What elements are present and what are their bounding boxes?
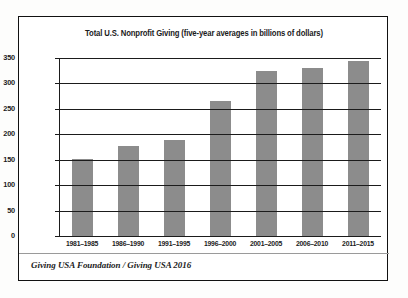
y-axis-line — [59, 58, 60, 236]
y-axis-label: 50 — [0, 206, 15, 215]
y-axis-label: 100 — [0, 180, 15, 189]
y-axis-label: 200 — [0, 129, 15, 138]
gridline — [59, 109, 381, 110]
x-axis-label: 2011–2015 — [333, 239, 383, 248]
y-axis-label: 300 — [0, 78, 15, 87]
gridline — [59, 83, 381, 84]
y-axis-tick — [55, 160, 59, 161]
x-axis-label: 2006–2010 — [287, 239, 337, 248]
gridline — [59, 211, 381, 212]
x-axis-label: 2001–2005 — [241, 239, 291, 248]
y-axis-label: 350 — [0, 53, 15, 62]
y-axis-tick — [55, 134, 59, 135]
gridline — [59, 185, 381, 186]
gridline — [59, 134, 381, 135]
y-axis-tick — [55, 58, 59, 59]
gridline — [59, 236, 381, 237]
gridline — [59, 160, 381, 161]
x-axis-label: 1981–1985 — [57, 239, 107, 248]
source-citation: Giving USA Foundation / Giving USA 2016 — [31, 260, 191, 270]
chart-figure: Total U.S. Nonprofit Giving (five-year a… — [18, 16, 388, 281]
bar — [72, 159, 93, 236]
y-axis-tick — [55, 109, 59, 110]
bar — [164, 140, 185, 236]
y-axis-label: 150 — [0, 155, 15, 164]
y-axis-label: 250 — [0, 104, 15, 113]
x-axis-labels: 1981–19851986–19901991–19951996–20002001… — [59, 239, 381, 253]
y-axis-tick — [55, 211, 59, 212]
gridline — [59, 58, 381, 59]
x-axis-label: 1996–2000 — [195, 239, 245, 248]
source-divider — [19, 253, 389, 254]
y-axis-label: 0 — [0, 231, 15, 240]
page-background: Total U.S. Nonprofit Giving (five-year a… — [0, 0, 408, 298]
chart-title: Total U.S. Nonprofit Giving (five-year a… — [32, 28, 376, 38]
bar — [210, 101, 231, 236]
x-axis-label: 1991–1995 — [149, 239, 199, 248]
y-axis-tick — [55, 185, 59, 186]
plot-area: 050100150200250300350 — [59, 58, 381, 236]
y-axis-tick — [55, 83, 59, 84]
y-axis-tick — [55, 236, 59, 237]
x-axis-label: 1986–1990 — [103, 239, 153, 248]
